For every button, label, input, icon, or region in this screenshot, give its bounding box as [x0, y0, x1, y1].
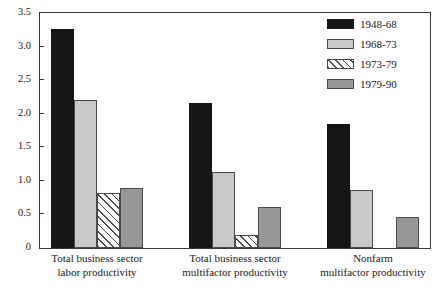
x-category-label-line: Total business sector — [170, 252, 300, 266]
bar — [258, 207, 281, 248]
productivity-growth-bar-chart: 00.51.01.52.02.53.03.5 Total business se… — [0, 0, 442, 297]
bar-slot — [189, 13, 212, 248]
x-category-label-line: multifactor productivity — [308, 266, 438, 280]
bar — [212, 172, 235, 248]
legend-swatch-icon — [327, 79, 354, 89]
legend-label: 1979-90 — [360, 79, 397, 90]
bar-slot — [212, 13, 235, 248]
y-tick-label: 2.0 — [18, 108, 31, 118]
y-tick-label: 1.0 — [18, 175, 31, 185]
legend-item: 1973-79 — [327, 56, 423, 72]
x-axis-category-labels: Total business sectorlabor productivityT… — [40, 252, 430, 279]
x-category-label: Total business sectorlabor productivity — [32, 252, 162, 279]
bar-slot — [97, 13, 120, 248]
legend-label: 1948-68 — [360, 19, 397, 30]
bar-slot — [51, 13, 74, 248]
bar — [235, 235, 258, 248]
bar-slot — [74, 13, 97, 248]
legend-item: 1968-73 — [327, 36, 423, 52]
y-tick-label: 3.0 — [18, 41, 31, 51]
legend-item: 1979-90 — [327, 76, 423, 92]
x-category-label-line: multifactor productivity — [170, 266, 300, 280]
bar — [51, 29, 74, 248]
bar — [74, 100, 97, 248]
legend-item: 1948-68 — [327, 16, 423, 32]
x-category-label: Total business sectormultifactor product… — [170, 252, 300, 279]
bar-slot — [120, 13, 143, 248]
x-category-label: Nonfarmmultifactor productivity — [308, 252, 438, 279]
bar-group — [170, 13, 300, 248]
bar — [327, 124, 350, 248]
y-tick-label: 0.5 — [18, 208, 31, 218]
x-category-label-line: Nonfarm — [308, 252, 438, 266]
bar — [189, 103, 212, 248]
bar — [120, 188, 143, 248]
x-category-label-line: Total business sector — [32, 252, 162, 266]
legend-swatch-icon — [327, 19, 354, 29]
x-category-label-line: labor productivity — [32, 266, 162, 280]
legend-label: 1973-79 — [360, 59, 397, 70]
legend-swatch-icon — [327, 59, 354, 69]
bar — [396, 217, 419, 248]
bar-group — [32, 13, 162, 248]
y-tick-label: 2.5 — [18, 74, 31, 84]
y-tick-label: 1.5 — [18, 141, 31, 151]
y-axis: 00.51.01.52.02.53.03.5 — [0, 12, 36, 249]
bar — [97, 193, 120, 248]
bar — [350, 190, 373, 248]
y-tick-label: 3.5 — [18, 7, 31, 17]
legend: 1948-681968-731973-791979-90 — [327, 16, 423, 96]
legend-swatch-icon — [327, 39, 354, 49]
y-tick-label: 0 — [26, 242, 31, 252]
legend-label: 1968-73 — [360, 39, 397, 50]
bar-slot — [258, 13, 281, 248]
bar-slot — [235, 13, 258, 248]
